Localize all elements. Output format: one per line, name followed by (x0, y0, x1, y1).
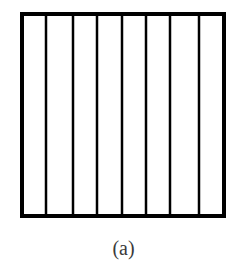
figure-caption: (a) (0, 236, 247, 260)
vertical-divider-lines (46, 14, 199, 216)
striped-square-diagram (0, 0, 247, 269)
figure: (a) (0, 0, 247, 269)
